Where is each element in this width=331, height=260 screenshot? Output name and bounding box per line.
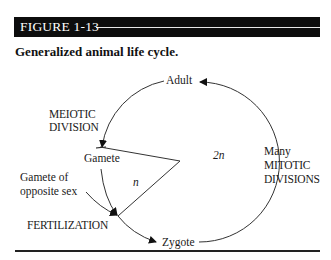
diploid-label: 2n <box>213 149 225 162</box>
opposite-gamete-label-line1: Gamete of <box>20 171 68 184</box>
haploid-wedge-bottom <box>118 161 180 216</box>
fertilization-label: FERTILIZATION <box>27 219 108 232</box>
mitotic-label-line3: DIVISIONS <box>264 173 320 186</box>
opposite-gamete-label-line2: opposite sex <box>20 185 77 198</box>
adult-label: Adult <box>166 74 192 87</box>
mitotic-label-line1: Many <box>264 145 291 158</box>
zygote-label: Zygote <box>162 236 195 249</box>
mitotic-label-line2: MITOTIC <box>264 159 310 172</box>
bottom-rule <box>15 250 320 252</box>
gamete-label: Gamete <box>84 152 120 165</box>
opposite-gamete-arrow <box>86 192 117 215</box>
meiotic-label-line1: MEIOTIC <box>49 108 96 121</box>
haploid-label: n <box>133 176 139 189</box>
meiotic-arc <box>102 81 164 147</box>
fertilization-to-zygote <box>118 216 156 242</box>
meiotic-label-line2: DIVISION <box>49 121 99 134</box>
